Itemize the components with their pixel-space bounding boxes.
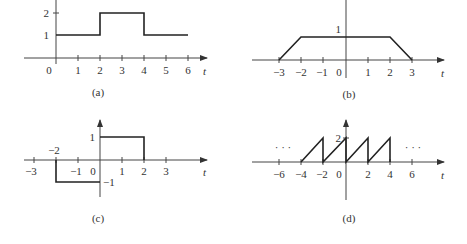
tick-label: 4 bbox=[141, 64, 147, 76]
tick-label: 1 bbox=[44, 29, 50, 41]
tick-label: 6 bbox=[185, 64, 191, 76]
signal-a bbox=[56, 13, 188, 35]
tick-label: −3 bbox=[25, 165, 37, 177]
tick-label: 0 bbox=[46, 64, 52, 76]
tick-label: −1 bbox=[70, 165, 82, 177]
panel-a: 0 1 2 3 4 5 6 t 1 2 (a) bbox=[24, 0, 207, 99]
tick-label: 0 bbox=[90, 165, 96, 177]
tick-label: −4 bbox=[295, 168, 307, 180]
axis-label-t: t bbox=[203, 65, 207, 77]
tick-label: 2 bbox=[365, 168, 371, 180]
tick-label: −3 bbox=[273, 66, 285, 78]
caption-d: (d) bbox=[343, 212, 356, 225]
tick-label: 2 bbox=[336, 132, 342, 144]
tick-label: 3 bbox=[119, 64, 125, 76]
caption-c: (c) bbox=[92, 212, 105, 225]
tick-label: 0 bbox=[336, 168, 342, 180]
tick-label: 1 bbox=[119, 165, 125, 177]
signal-d-sawtooth bbox=[301, 138, 390, 162]
tick-label: 3 bbox=[409, 66, 415, 78]
tick-label: 1 bbox=[75, 64, 81, 76]
ellipsis-left: · · · bbox=[275, 141, 292, 153]
signals-figure: 0 1 2 3 4 5 6 t 1 2 (a) −3 −2 −1 0 1 2 3… bbox=[0, 0, 467, 244]
tick-label: 4 bbox=[387, 168, 393, 180]
axis-label-t: t bbox=[441, 67, 445, 79]
tick-label: −6 bbox=[273, 168, 285, 180]
tick-label: 6 bbox=[409, 168, 415, 180]
panel-b: −3 −2 −1 0 1 2 3 t 1 (b) bbox=[252, 0, 445, 101]
tick-label: −1 bbox=[316, 66, 328, 78]
tick-label: 5 bbox=[163, 64, 169, 76]
tick-label: −2 bbox=[48, 144, 60, 156]
tick-label: 2 bbox=[97, 64, 103, 76]
caption-b: (b) bbox=[343, 88, 356, 101]
tick-label: 1 bbox=[90, 131, 96, 143]
tick-label: 1 bbox=[336, 23, 342, 35]
panel-c: −3 −2 −1 0 1 2 3 t 1 −1 (c) bbox=[24, 120, 207, 225]
signal-c-positive bbox=[100, 137, 144, 160]
tick-label: 3 bbox=[163, 165, 169, 177]
tick-label: −2 bbox=[295, 66, 307, 78]
axis-label-t: t bbox=[203, 166, 207, 178]
tick-label: 2 bbox=[44, 7, 50, 19]
tick-label: −2 bbox=[316, 168, 328, 180]
ellipsis-right: · · · bbox=[405, 141, 422, 153]
tick-label: 2 bbox=[141, 165, 147, 177]
panel-d: −6 −4 −2 0 2 4 6 t 2 · · · · · · (d) bbox=[252, 120, 445, 225]
caption-a: (a) bbox=[92, 86, 105, 99]
tick-label: 0 bbox=[336, 66, 342, 78]
tick-label: 2 bbox=[387, 66, 393, 78]
axis-label-t: t bbox=[441, 169, 445, 181]
tick-label: −1 bbox=[103, 176, 115, 188]
tick-label: 1 bbox=[365, 66, 371, 78]
